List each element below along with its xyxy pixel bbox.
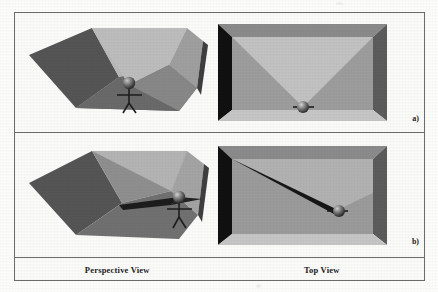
top-view-panel-a xyxy=(215,15,405,130)
caption-row: Perspective View Top View xyxy=(15,258,424,281)
perspective-room-b-graphic xyxy=(19,135,213,255)
scan-smudge-2 xyxy=(336,2,343,5)
panel-a xyxy=(15,13,424,132)
wall-left-band-b xyxy=(218,146,232,245)
wall-left-band xyxy=(218,24,232,121)
top-room-a-graphic xyxy=(215,15,405,130)
figure-page: Perspective View Top View a) b) xyxy=(0,0,438,292)
wall-top-band-b xyxy=(218,146,387,159)
top-room-b-graphic xyxy=(215,135,405,255)
wall-right-band xyxy=(373,24,387,121)
wall-right-band-b xyxy=(373,146,387,245)
figure-frame: Perspective View Top View a) b) xyxy=(14,12,425,281)
top-view-panel-b xyxy=(215,135,405,255)
caption-perspective-view: Perspective View xyxy=(15,258,220,281)
perspective-view-panel-a xyxy=(19,15,213,130)
panel-label-b: b) xyxy=(412,237,419,246)
wall-top-band xyxy=(218,24,387,37)
scan-smudge xyxy=(256,284,261,288)
caption-top-view: Top View xyxy=(220,258,425,281)
panel-label-a: a) xyxy=(412,114,419,123)
perspective-view-panel-b xyxy=(19,135,213,255)
perspective-room-a-graphic xyxy=(19,15,213,130)
wall-bottom-band-b xyxy=(218,234,387,245)
panel-b xyxy=(15,133,424,257)
